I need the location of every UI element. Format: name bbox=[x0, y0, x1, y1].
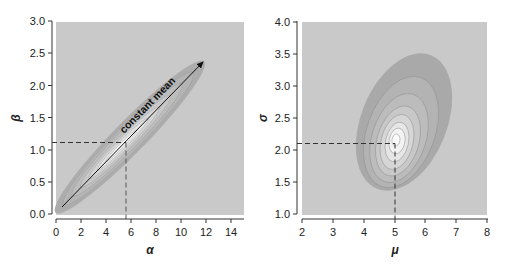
svg-text:8: 8 bbox=[484, 226, 490, 238]
svg-text:8: 8 bbox=[153, 226, 159, 238]
svg-text:3.0: 3.0 bbox=[30, 15, 45, 27]
svg-text:2.0: 2.0 bbox=[30, 80, 45, 92]
svg-text:2: 2 bbox=[78, 226, 84, 238]
svg-text:2: 2 bbox=[299, 226, 305, 238]
svg-text:1.0: 1.0 bbox=[275, 208, 290, 220]
svg-text:0.5: 0.5 bbox=[30, 176, 45, 188]
svg-text:6: 6 bbox=[128, 226, 134, 238]
right-y-ticks: 1.0 1.5 2.0 2.5 3.0 3.5 4.0 bbox=[275, 16, 297, 220]
svg-text:7: 7 bbox=[453, 226, 459, 238]
svg-text:4.0: 4.0 bbox=[275, 16, 290, 28]
svg-text:3.0: 3.0 bbox=[275, 80, 290, 92]
left-y-axis-label: β bbox=[9, 114, 23, 123]
svg-text:0.0: 0.0 bbox=[30, 208, 45, 220]
svg-text:5: 5 bbox=[392, 226, 398, 238]
svg-text:10: 10 bbox=[175, 226, 187, 238]
left-panel: constant mean 0.0 0.5 1.0 1.5 2.0 2.5 3.… bbox=[9, 15, 244, 257]
svg-text:4: 4 bbox=[361, 226, 367, 238]
svg-text:1.0: 1.0 bbox=[30, 144, 45, 156]
svg-text:2.0: 2.0 bbox=[275, 144, 290, 156]
svg-text:14: 14 bbox=[225, 226, 237, 238]
right-x-axis-label: μ bbox=[390, 243, 399, 257]
left-y-ticks: 0.0 0.5 1.0 1.5 2.0 2.5 3.0 bbox=[30, 15, 52, 220]
svg-text:2.5: 2.5 bbox=[30, 47, 45, 59]
svg-text:3.5: 3.5 bbox=[275, 48, 290, 60]
svg-text:1.5: 1.5 bbox=[30, 112, 45, 124]
svg-text:12: 12 bbox=[200, 226, 212, 238]
svg-text:4: 4 bbox=[103, 226, 109, 238]
svg-text:6: 6 bbox=[422, 226, 428, 238]
right-x-ticks: 2 3 4 5 6 7 8 bbox=[299, 219, 490, 238]
right-panel: 1.0 1.5 2.0 2.5 3.0 3.5 4.0 2 3 4 5 6 7 … bbox=[256, 16, 490, 257]
svg-text:1.5: 1.5 bbox=[275, 176, 290, 188]
figure: constant mean 0.0 0.5 1.0 1.5 2.0 2.5 3.… bbox=[0, 0, 506, 266]
right-y-axis-label: σ bbox=[256, 113, 270, 122]
svg-text:0: 0 bbox=[53, 226, 59, 238]
left-x-ticks: 0 2 4 6 8 10 12 14 bbox=[53, 219, 237, 238]
svg-text:3: 3 bbox=[330, 226, 336, 238]
svg-text:2.5: 2.5 bbox=[275, 112, 290, 124]
left-x-axis-label: α bbox=[146, 243, 154, 257]
